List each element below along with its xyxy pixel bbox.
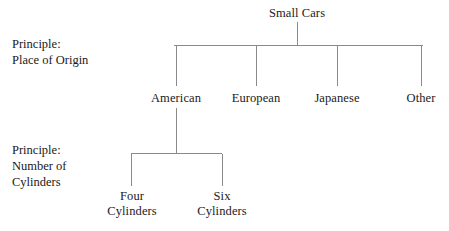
- side-label-cylinders-line3: Cylinders: [12, 174, 67, 190]
- node-six-cylinders-line2: Cylinders: [197, 204, 247, 219]
- node-six-cylinders: Six Cylinders: [197, 189, 247, 219]
- side-label-cylinders-line1: Principle:: [12, 142, 67, 158]
- node-japanese: Japanese: [314, 91, 359, 106]
- side-label-place-of-origin: Principle: Place of Origin: [12, 36, 88, 68]
- node-four-cylinders-line1: Four: [120, 189, 144, 203]
- side-label-number-of-cylinders: Principle: Number of Cylinders: [12, 142, 67, 190]
- node-other: Other: [407, 91, 436, 106]
- node-four-cylinders-line2: Cylinders: [107, 204, 157, 219]
- node-small-cars: Small Cars: [269, 6, 325, 21]
- node-european: European: [232, 91, 281, 106]
- side-label-origin-line1: Principle:: [12, 36, 88, 52]
- side-label-origin-line2: Place of Origin: [12, 52, 88, 68]
- classification-tree-diagram: Principle: Place of Origin Principle: Nu…: [0, 0, 449, 231]
- node-american: American: [151, 91, 201, 106]
- node-six-cylinders-line1: Six: [214, 189, 231, 203]
- side-label-cylinders-line2: Number of: [12, 158, 67, 174]
- node-four-cylinders: Four Cylinders: [107, 189, 157, 219]
